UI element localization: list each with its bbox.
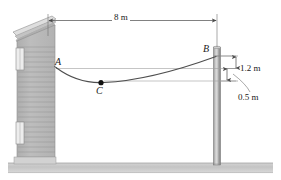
ground [8,163,273,173]
utility-pole [214,46,221,165]
label-point-a: A [55,57,61,67]
statics-diagram-svg [0,0,281,180]
cable [56,57,216,83]
label-dimension-0-5m: 0.5 m [238,93,259,102]
label-dimension-1-2m: 1.2 m [240,64,261,73]
figure-canvas: A B C 8 m 1.2 m 0.5 m [0,0,281,180]
house [13,16,56,164]
label-point-b: B [203,44,209,54]
label-point-c: C [96,86,103,96]
house-window-upper [16,48,24,70]
house-window-lower [16,122,24,144]
dimension-span-8m [48,14,217,47]
label-dimension-span: 8 m [112,13,130,22]
